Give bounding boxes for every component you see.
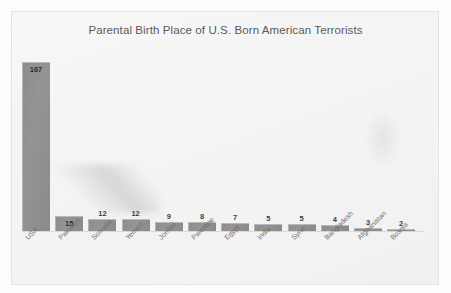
chart-screenshot: Parental Birth Place of U.S. Born Americ…: [0, 0, 451, 293]
bar-usa: [22, 62, 50, 231]
bar-value-label: 9: [155, 212, 183, 221]
bar-value-label: 7: [221, 213, 249, 222]
plot-area: [22, 52, 422, 232]
bar-value-label: 5: [254, 214, 282, 223]
bar-value-label: 167: [22, 65, 50, 74]
chart-title: Parental Birth Place of U.S. Born Americ…: [0, 24, 451, 36]
bar-value-label: 12: [122, 209, 150, 218]
bar-value-label: 5: [288, 214, 316, 223]
bar-value-label: 12: [88, 209, 116, 218]
